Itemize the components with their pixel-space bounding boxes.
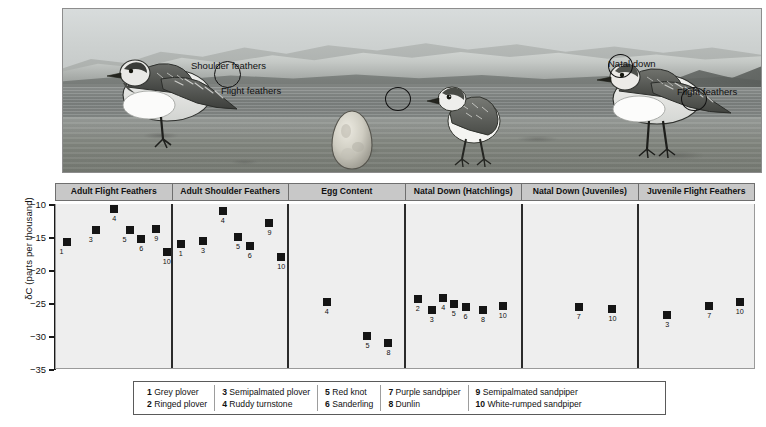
panel-header-2: Egg Content [289, 184, 406, 200]
flight-feathers-circle-adult [385, 87, 411, 111]
data-point [199, 237, 207, 245]
data-point-label: 10 [608, 314, 616, 323]
data-point-label: 1 [179, 249, 183, 258]
data-point [110, 205, 118, 213]
panel-header-4: Natal Down (Juveniles) [522, 184, 639, 200]
legend-column-3: 7 Purple sandpiper8 Dunlin [381, 385, 468, 411]
data-point-label: 10 [163, 257, 171, 266]
data-point [219, 207, 227, 215]
data-point-label: 3 [665, 320, 669, 329]
legend-entry: 9 Semipalmated sandpiper [476, 387, 582, 398]
y-tick-0 [49, 204, 54, 206]
annotation-flight-feathers-adult: Flight feathers [221, 85, 281, 96]
data-point [137, 235, 145, 243]
data-point-label: 5 [452, 309, 456, 318]
data-point [575, 303, 583, 311]
data-point-label: 1 [60, 247, 64, 256]
y-tick-5 [49, 369, 54, 371]
panel-header-row: Adult Flight FeathersAdult Shoulder Feat… [55, 183, 755, 201]
data-point-label: 10 [736, 307, 744, 316]
legend-entry: 8 Dunlin [388, 399, 460, 410]
data-point-label: 3 [430, 315, 434, 324]
data-point [246, 242, 254, 250]
data-point [479, 306, 487, 314]
panel-3: 23456810 [406, 204, 523, 368]
legend-entry: 3 Semipalmated plover [222, 387, 310, 398]
data-point [462, 303, 470, 311]
data-point-label: 5 [365, 341, 369, 350]
data-point-label: 4 [221, 216, 225, 225]
legend-entry: 2 Ringed plover [147, 399, 207, 410]
data-point-label: 3 [89, 235, 93, 244]
data-point-label: 9 [267, 228, 271, 237]
data-point-label: 10 [277, 262, 285, 271]
legend-entry: 4 Ruddy turnstone [222, 399, 310, 410]
data-point-label: 4 [112, 214, 116, 223]
legend-entry: 10 White-rumped sandpiper [476, 399, 582, 410]
legend-column-4: 9 Semipalmated sandpiper10 White-rumped … [469, 385, 589, 411]
data-point [277, 253, 285, 261]
legend-column-2: 5 Red knot6 Sanderling [318, 385, 381, 411]
data-point-label: 5 [123, 235, 127, 244]
data-point-label: 8 [386, 348, 390, 357]
legend-column-1: 3 Semipalmated plover4 Ruddy turnstone [215, 385, 318, 411]
data-point [428, 306, 436, 314]
figure-illustration [62, 8, 762, 173]
data-point [152, 225, 160, 233]
data-point [736, 298, 744, 306]
data-point [177, 240, 185, 248]
data-point [265, 219, 273, 227]
panel-5: 3710 [639, 204, 756, 368]
data-point-label: 4 [325, 307, 329, 316]
legend-entry: 5 Red knot [325, 387, 373, 398]
y-tick-1 [49, 237, 54, 239]
legend-number: 6 [325, 399, 330, 409]
y-tick-label-2: −20 [30, 265, 46, 276]
panel-2: 458 [289, 204, 406, 368]
y-axis-ticks: −10−15−20−25−30−35 [0, 0, 55, 427]
scatter-plot-area: 1345691013456910458234568107103710 [55, 204, 755, 369]
panel-header-3: Natal Down (Hatchlings) [406, 184, 523, 200]
data-point-label: 8 [481, 315, 485, 324]
y-tick-label-3: −25 [30, 298, 46, 309]
data-point-label: 2 [416, 304, 420, 313]
y-tick-2 [49, 270, 54, 272]
data-point [450, 300, 458, 308]
data-point-label: 7 [577, 312, 581, 321]
legend-entry: 6 Sanderling [325, 399, 373, 410]
data-point [363, 332, 371, 340]
data-point [92, 226, 100, 234]
legend-entry: 7 Purple sandpiper [388, 387, 460, 398]
y-tick-label-1: −15 [30, 232, 46, 243]
data-point-label: 7 [707, 311, 711, 320]
y-tick-4 [49, 336, 54, 338]
y-tick-label-4: −30 [30, 331, 46, 342]
data-point [323, 298, 331, 306]
legend-number: 7 [388, 387, 393, 397]
data-point-label: 4 [441, 303, 445, 312]
panel-1: 13456910 [173, 204, 290, 368]
legend-number: 3 [222, 387, 227, 397]
legend-number: 4 [222, 399, 227, 409]
panel-0: 13456910 [56, 204, 173, 368]
legend-number: 2 [147, 399, 152, 409]
panel-header-5: Juvenile Flight Feathers [639, 184, 755, 200]
data-point-label: 6 [248, 251, 252, 260]
annotation-flight-feathers-juvenile: Flight feathers [677, 86, 737, 97]
data-point [234, 233, 242, 241]
hatchling-chick [418, 79, 518, 171]
data-point [414, 295, 422, 303]
legend-number: 1 [147, 387, 152, 397]
panel-header-1: Adult Shoulder Feathers [173, 184, 290, 200]
y-tick-label-5: −35 [30, 364, 46, 375]
panel-header-0: Adult Flight Feathers [56, 184, 173, 200]
y-tick-3 [49, 303, 54, 305]
egg [328, 109, 376, 171]
data-point-label: 10 [499, 311, 507, 320]
y-tick-label-0: −10 [30, 199, 46, 210]
data-point-label: 6 [139, 244, 143, 253]
data-point-label: 3 [201, 246, 205, 255]
data-point [705, 302, 713, 310]
data-point [663, 311, 671, 319]
annotation-shoulder-feathers: Shoulder feathers [191, 60, 266, 71]
